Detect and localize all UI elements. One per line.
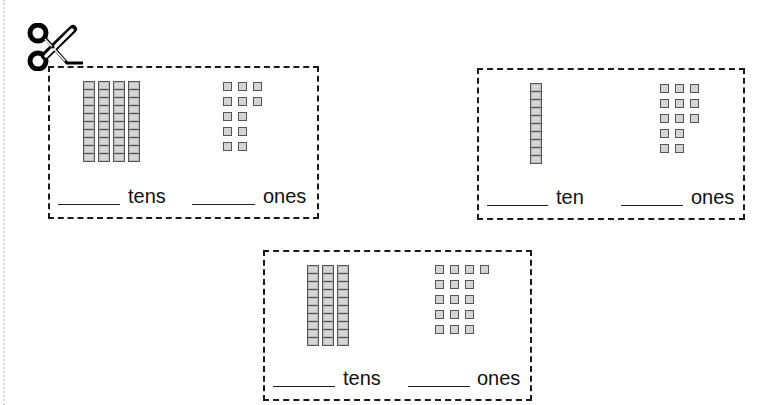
ones-answer-blank[interactable] xyxy=(192,204,255,205)
tens-rod xyxy=(530,83,542,164)
ones-cube xyxy=(435,295,444,304)
ones-answer-blank[interactable] xyxy=(408,386,470,387)
ones-cube xyxy=(675,114,684,123)
tens-rod xyxy=(307,265,319,346)
ones-cube xyxy=(660,84,669,93)
tens-rod xyxy=(98,81,110,162)
ones-cube xyxy=(223,97,232,106)
ones-cube xyxy=(465,280,474,289)
tens-answer-blank[interactable] xyxy=(273,386,335,387)
ones-label: ones xyxy=(263,186,306,206)
ones-cube xyxy=(690,114,699,123)
tens-rod xyxy=(337,265,349,346)
ones-cube xyxy=(253,82,262,91)
ones-cube xyxy=(450,295,459,304)
ones-cube xyxy=(238,97,247,106)
tens-label: ten xyxy=(556,187,584,207)
ones-cube xyxy=(223,142,232,151)
tens-rod xyxy=(113,81,125,162)
ones-answer-blank[interactable] xyxy=(621,205,683,206)
ones-cube xyxy=(435,310,444,319)
ones-cube xyxy=(450,265,459,274)
ones-cube xyxy=(238,82,247,91)
ones-cube xyxy=(435,265,444,274)
tens-rod xyxy=(322,265,334,346)
ones-cube xyxy=(675,84,684,93)
ones-cube xyxy=(450,310,459,319)
tens-answer-blank[interactable] xyxy=(487,205,548,206)
ones-cube xyxy=(480,265,489,274)
ones-cube xyxy=(238,142,247,151)
ones-cube xyxy=(465,295,474,304)
ones-cube xyxy=(238,127,247,136)
ones-cube xyxy=(690,84,699,93)
ones-cube xyxy=(690,99,699,108)
ones-cube xyxy=(660,144,669,153)
tens-label: tens xyxy=(128,186,166,206)
ones-cube xyxy=(675,144,684,153)
ones-cube xyxy=(675,99,684,108)
tens-label: tens xyxy=(343,368,381,388)
ones-cube xyxy=(465,325,474,334)
ones-cube xyxy=(465,265,474,274)
ones-cube xyxy=(435,325,444,334)
ones-cube xyxy=(465,310,474,319)
ones-cube xyxy=(223,82,232,91)
tens-rod xyxy=(83,81,95,162)
ones-cube xyxy=(660,99,669,108)
tens-rod xyxy=(128,81,140,162)
ones-cube xyxy=(238,112,247,121)
ones-label: ones xyxy=(691,187,734,207)
ones-label: ones xyxy=(477,368,520,388)
ones-cube xyxy=(450,325,459,334)
ones-cube xyxy=(435,280,444,289)
ones-cube xyxy=(675,129,684,138)
ones-cube xyxy=(450,280,459,289)
page-margin-dotted-line xyxy=(3,0,5,405)
ones-cube xyxy=(660,129,669,138)
scissors-icon xyxy=(27,23,85,71)
tens-answer-blank[interactable] xyxy=(58,204,120,205)
ones-cube xyxy=(660,114,669,123)
ones-cube xyxy=(253,97,262,106)
ones-cube xyxy=(223,112,232,121)
ones-cube xyxy=(223,127,232,136)
